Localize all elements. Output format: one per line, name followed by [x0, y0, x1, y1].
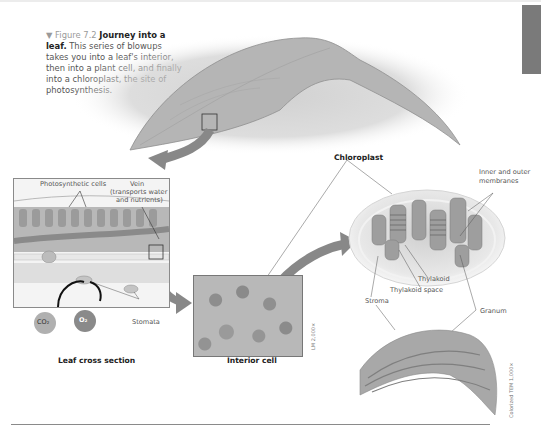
chloroplast-title: Chloroplast [334, 153, 383, 162]
chloroplast-tem-image [360, 330, 497, 415]
label-stroma: Stroma [365, 297, 389, 305]
label-thylakoid: Thylakoid [418, 275, 450, 283]
o2-circle: O₂ [74, 310, 96, 332]
interior-cell-scale: LM 2,000× [310, 323, 316, 350]
label-vein-note-2: and nutrients) [116, 196, 163, 204]
label-photosynthetic-cells: Photosynthetic cells [40, 180, 106, 188]
label-stomata: Stomata [132, 318, 160, 326]
bottom-rule [11, 424, 490, 425]
interior-cell-image [193, 275, 303, 357]
co2-label: CO₂ [37, 318, 49, 326]
label-vein: Vein [130, 180, 144, 188]
chloroplast-tem-scale: Colorized TEM 1,000× [508, 362, 514, 418]
label-thylakoid-space: Thylakoid space [390, 286, 443, 294]
leaf-cross-section-title: Leaf cross section [58, 356, 135, 365]
co2-circle: CO₂ [34, 312, 56, 334]
label-membranes-1: Inner and outer [479, 168, 530, 176]
o2-label: O₂ [79, 316, 87, 324]
interior-cell-title: Interior cell [227, 356, 277, 365]
label-granum: Granum [480, 307, 507, 315]
label-vein-note-1: (transports water [110, 188, 167, 196]
label-membranes-2: membranes [479, 177, 519, 185]
